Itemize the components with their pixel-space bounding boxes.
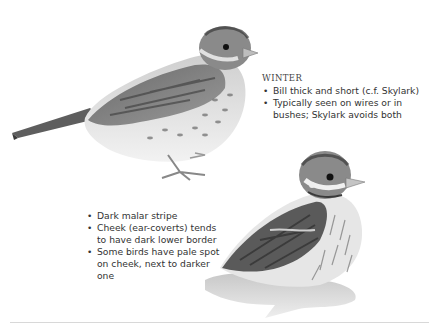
feature-bullet: Dark malar stripe: [86, 210, 222, 222]
feature-bullet: Some birds have pale spot on cheek, next…: [86, 246, 222, 282]
head-features-note: Dark malar stripe Cheek (ear-coverts) te…: [86, 210, 222, 282]
head-features-bullets: Dark malar stripe Cheek (ear-coverts) te…: [86, 210, 222, 282]
winter-bullet: Typically seen on wires or in bushes; Sk…: [262, 97, 422, 121]
crouching-bird-illustration: [200, 140, 380, 329]
winter-bullets: Bill thick and short (c.f. Skylark) Typi…: [262, 85, 422, 121]
winter-heading: WINTER: [262, 72, 422, 84]
feature-bullet: Cheek (ear-coverts) tends to have dark l…: [86, 222, 222, 246]
winter-bullet: Bill thick and short (c.f. Skylark): [262, 85, 422, 97]
winter-note: WINTER Bill thick and short (c.f. Skylar…: [262, 72, 422, 121]
bottom-divider: [10, 322, 429, 323]
